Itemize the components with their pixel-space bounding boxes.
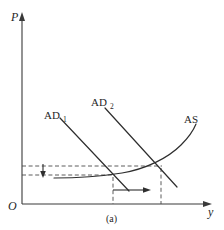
as-label: AS bbox=[184, 113, 198, 125]
y-axis-arrowhead bbox=[19, 12, 25, 21]
ad2-label-group: AD 2 bbox=[91, 96, 114, 111]
origin-label: O bbox=[8, 199, 17, 213]
ad2-label: AD bbox=[91, 96, 107, 108]
figure-caption: (a) bbox=[106, 213, 117, 225]
ad2-curve bbox=[105, 108, 177, 187]
x-axis-label: y bbox=[207, 205, 214, 219]
ad1-label-group: AD 1 bbox=[44, 109, 67, 124]
y-axis-label: P bbox=[10, 10, 19, 24]
x-axis bbox=[22, 201, 212, 207]
ad1-curve bbox=[60, 118, 129, 191]
chart-canvas: P y O AD 1 AD 2 AS (a) bbox=[0, 0, 224, 230]
as-curve bbox=[54, 124, 196, 178]
output-change-arrow bbox=[113, 187, 151, 193]
ad1-subscript: 1 bbox=[63, 115, 67, 124]
ad1-label: AD bbox=[44, 109, 60, 121]
ad2-subscript: 2 bbox=[110, 102, 114, 111]
ad-as-figure: P y O AD 1 AD 2 AS (a) bbox=[0, 0, 224, 230]
